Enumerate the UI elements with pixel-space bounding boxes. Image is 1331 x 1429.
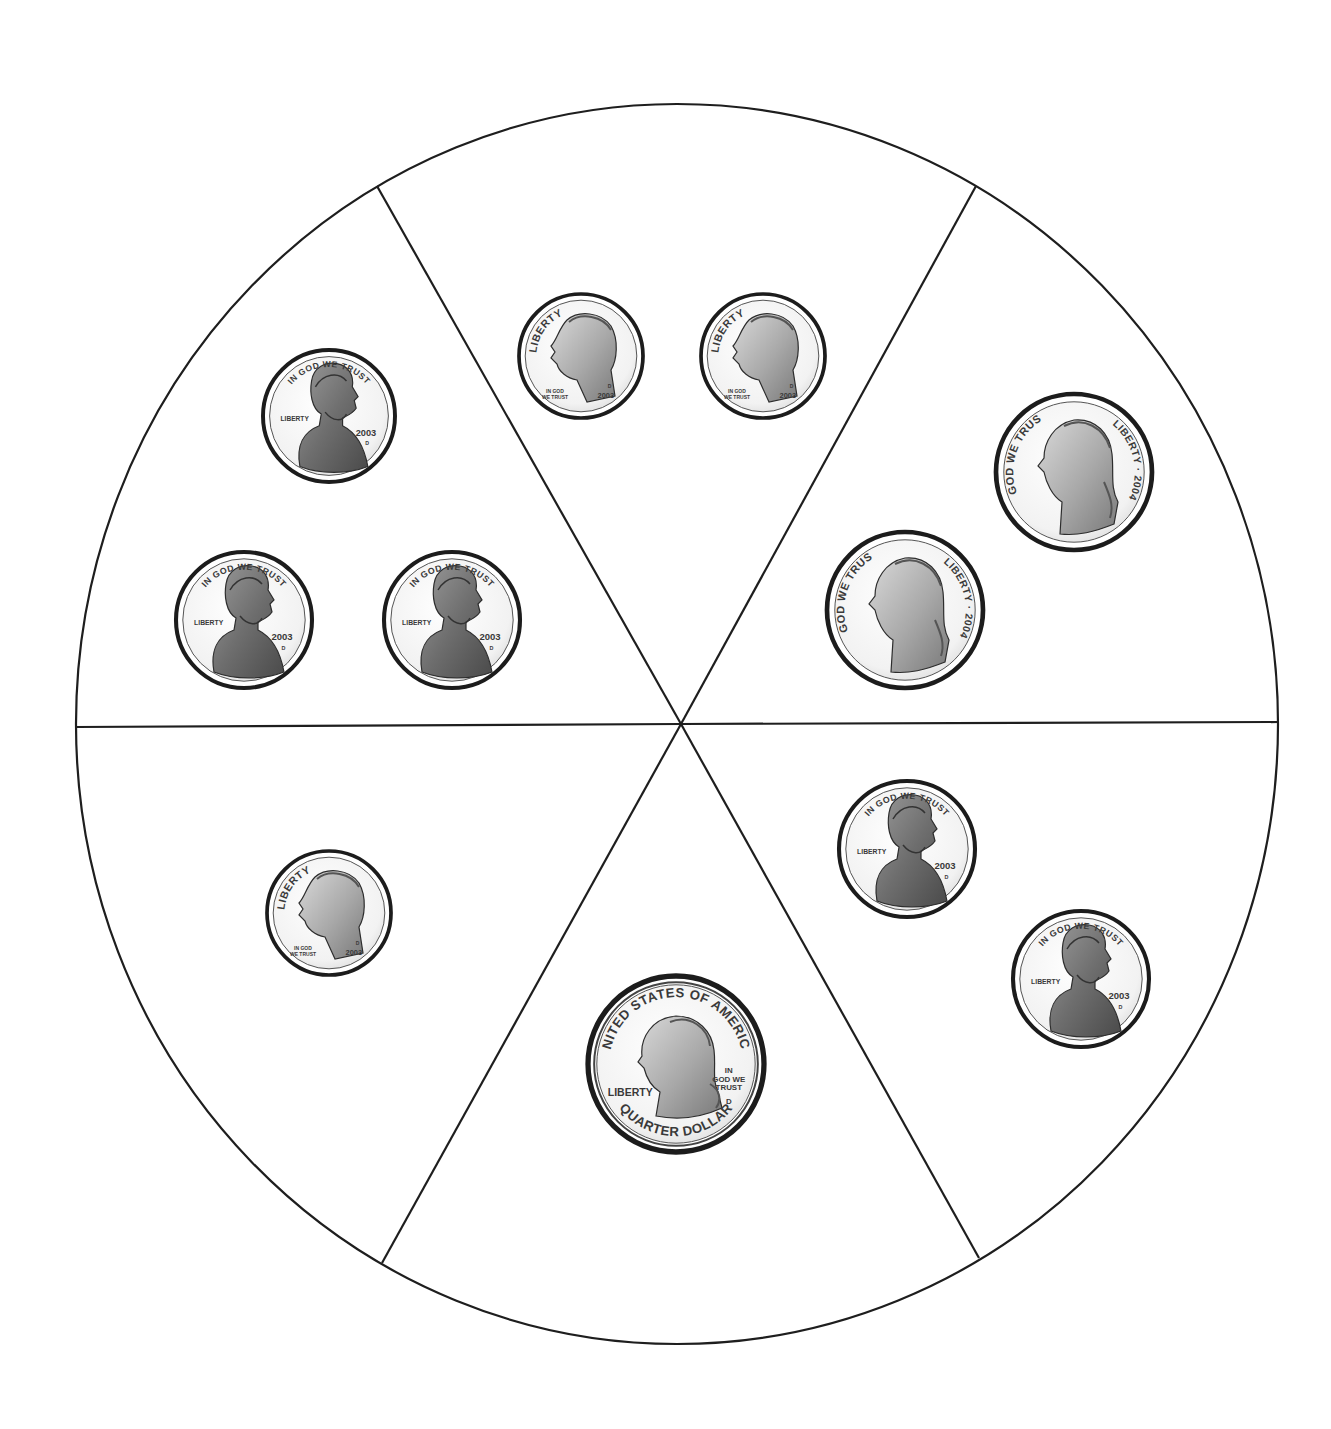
section-upper-left: IN GOD WE TRUSTLIBERTY2003DIN GOD WE TRU… — [176, 350, 520, 688]
penny-coin: IN GOD WE TRUSTLIBERTY2003D — [263, 350, 395, 482]
svg-text:LIBERTY: LIBERTY — [608, 1086, 653, 1098]
svg-text:2003: 2003 — [1108, 990, 1129, 1001]
dime-coin: LIBERTYIN GODWE TRUST2003D — [519, 294, 643, 418]
svg-text:D: D — [1118, 1004, 1122, 1010]
penny-coin: IN GOD WE TRUSTLIBERTY2003D — [839, 781, 975, 917]
svg-text:TRUST: TRUST — [716, 1083, 743, 1092]
penny-coin: IN GOD WE TRUSTLIBERTY2003D — [384, 552, 520, 688]
section-bottom: UNITED STATES OF AMERICAQUARTER DOLLARLI… — [588, 976, 764, 1152]
svg-text:2003: 2003 — [780, 391, 797, 400]
svg-text:D: D — [608, 383, 612, 389]
section-lower-right: IN GOD WE TRUSTLIBERTY2003DIN GOD WE TRU… — [839, 781, 1149, 1047]
svg-text:LIBERTY: LIBERTY — [402, 619, 432, 626]
svg-text:IN GOD: IN GOD — [728, 388, 746, 394]
penny-coin: IN GOD WE TRUSTLIBERTY2003D — [1013, 911, 1149, 1047]
svg-text:LIBERTY: LIBERTY — [281, 415, 310, 422]
svg-text:WE TRUST: WE TRUST — [542, 394, 568, 400]
section-upper-right: IN GOD WE TRUSTLIBERTY · 2004IN GOD WE T… — [827, 394, 1152, 688]
svg-text:2003: 2003 — [271, 631, 292, 642]
svg-text:D: D — [790, 383, 794, 389]
dime-coin: LIBERTYIN GODWE TRUST2003D — [701, 294, 825, 418]
svg-text:2003: 2003 — [346, 948, 363, 957]
svg-text:D: D — [356, 940, 360, 946]
svg-text:WE TRUST: WE TRUST — [290, 951, 316, 957]
svg-text:D: D — [281, 645, 285, 651]
dime-coin: LIBERTYIN GODWE TRUST2003D — [267, 851, 391, 975]
svg-text:IN: IN — [725, 1066, 733, 1075]
svg-text:LIBERTY: LIBERTY — [194, 619, 224, 626]
svg-text:2003: 2003 — [598, 391, 615, 400]
svg-text:2003: 2003 — [479, 631, 500, 642]
svg-text:IN GOD: IN GOD — [294, 945, 312, 951]
nickel-coin: IN GOD WE TRUSTLIBERTY · 2004 — [996, 394, 1152, 550]
section-top: LIBERTYIN GODWE TRUST2003DLIBERTYIN GODW… — [519, 294, 825, 418]
svg-text:IN GOD: IN GOD — [546, 388, 564, 394]
quarter-coin: UNITED STATES OF AMERICAQUARTER DOLLARLI… — [588, 976, 764, 1152]
svg-text:2003: 2003 — [934, 860, 955, 871]
svg-text:LIBERTY: LIBERTY — [857, 848, 887, 855]
penny-coin: IN GOD WE TRUSTLIBERTY2003D — [176, 552, 312, 688]
svg-text:GOD WE: GOD WE — [712, 1075, 745, 1084]
svg-text:LIBERTY: LIBERTY — [1031, 978, 1061, 985]
svg-text:D: D — [726, 1097, 732, 1106]
svg-text:D: D — [489, 645, 493, 651]
svg-text:2003: 2003 — [356, 428, 377, 438]
divider-horizontal-left — [76, 724, 681, 727]
coin-wheel-diagram: IN GOD WE TRUSTLIBERTY2003DIN GOD WE TRU… — [0, 0, 1331, 1429]
section-lower-left: LIBERTYIN GODWE TRUST2003D — [267, 851, 391, 975]
svg-text:D: D — [365, 440, 369, 446]
nickel-coin: IN GOD WE TRUSTLIBERTY · 2004 — [827, 532, 983, 688]
svg-text:WE TRUST: WE TRUST — [724, 394, 750, 400]
divider-horizontal-right — [681, 722, 1278, 724]
svg-text:D: D — [944, 874, 948, 880]
